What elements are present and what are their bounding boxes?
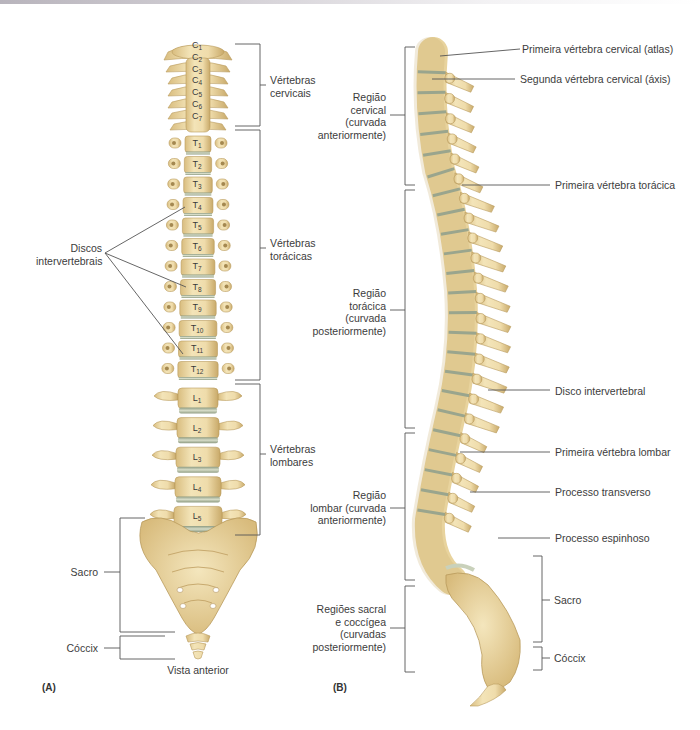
vertebra-label-t4: T4 <box>187 200 207 211</box>
vertebra-label-l5: L5 <box>187 511 207 522</box>
vertebra-label-l2: L2 <box>187 423 207 434</box>
vertebra-label-t8: T8 <box>187 282 207 293</box>
label-regioes-sacral-coccigea: Regiões sacrale coccígea (curvadasposter… <box>300 603 386 653</box>
vertebra-label-l3: L3 <box>187 452 207 463</box>
vertebra-label-t1: T1 <box>187 138 207 149</box>
panel-letter-b: (B) <box>333 682 347 693</box>
vertebra-label-t11: T11 <box>187 343 207 354</box>
label-sacro-a: Sacro <box>40 566 98 579</box>
vertebra-label-t9: T9 <box>187 302 207 313</box>
label-discos-intervertebrais: Discosintervertebrais <box>36 242 102 267</box>
vertebra-label-t2: T2 <box>187 159 207 170</box>
vertebra-label-t12: T12 <box>187 364 207 375</box>
vertebra-label-c4: C4 <box>187 75 207 86</box>
label-coccix-a: Cóccix <box>40 642 98 655</box>
label-regiao-cervical: Regiãocervical (curvadaanteriormente) <box>300 91 386 141</box>
vertebra-label-c2: C2 <box>187 52 207 63</box>
label-processo-espinhoso: Processo espinhoso <box>555 532 650 545</box>
label-atlas: Primeira vértebra cervical (atlas) <box>522 43 673 56</box>
vertebra-label-t7: T7 <box>187 261 207 272</box>
label-primeira-toracica: Primeira vértebra torácica <box>555 179 675 192</box>
label-sacro-b: Sacro <box>554 594 581 607</box>
vertebra-label-t3: T3 <box>187 179 207 190</box>
vertebra-label-l1: L1 <box>187 393 207 404</box>
label-coccix-b: Cóccix <box>554 652 586 665</box>
caption-vista-anterior: Vista anterior <box>148 664 248 677</box>
lateral-spine <box>417 52 520 706</box>
label-regiao-toracica: Regiãotorácica (curvadaposteriormente) <box>300 287 386 337</box>
label-vertebras-lombares: Vértebraslombares <box>270 443 316 468</box>
vertebra-label-l4: L4 <box>187 482 207 493</box>
vertebra-label-c3: C3 <box>187 64 207 75</box>
vertebra-label-c5: C5 <box>187 87 207 98</box>
label-vertebras-toracicas: Vértebrastorácicas <box>270 237 316 262</box>
label-primeira-lombar: Primeira vértebra lombar <box>555 446 671 459</box>
vertebra-label-c6: C6 <box>187 99 207 110</box>
label-disco-intervertebral: Disco intervertebral <box>555 385 645 398</box>
label-regiao-lombar: Regiãolombar (curvada anteriormente) <box>300 489 386 527</box>
vertebra-label-t5: T5 <box>187 220 207 231</box>
vertebra-label-t6: T6 <box>187 241 207 252</box>
panel-letter-a: (A) <box>42 682 56 693</box>
vertebra-label-t10: T10 <box>187 323 207 334</box>
vertebra-label-c1: C1 <box>187 40 207 51</box>
label-processo-transverso: Processo transverso <box>555 486 651 499</box>
vertebra-label-c7: C7 <box>187 111 207 122</box>
label-axis: Segunda vértebra cervical (áxis) <box>520 73 671 86</box>
